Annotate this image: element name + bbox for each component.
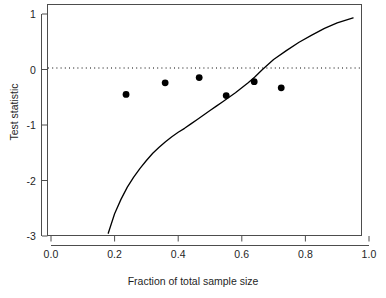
scatter-point-0	[123, 91, 130, 98]
x-tick-label-1: 0.2	[107, 248, 122, 260]
scatter-point-1	[162, 79, 169, 86]
scatter-point-2	[196, 74, 203, 81]
scatter-point-4	[251, 78, 258, 85]
x-axis-ticks	[51, 236, 369, 242]
y-axis-title: Test statistic	[8, 52, 20, 172]
plot-frame	[48, 5, 362, 236]
boundary-curve-path	[108, 18, 353, 233]
scatter-point-3	[223, 92, 230, 99]
scatter-point-5	[278, 84, 285, 91]
x-tick-label-2: 0.4	[171, 248, 186, 260]
y-tick-label-0: 1	[14, 8, 36, 20]
y-tick-label-4: -3	[14, 230, 36, 242]
y-axis-ticks	[42, 14, 48, 236]
x-axis-title: Fraction of total sample size	[0, 275, 386, 287]
chart-figure: 0.00.20.40.60.81.0 10-1-2-3 Fraction of …	[0, 0, 386, 298]
x-tick-label-3: 0.6	[234, 248, 249, 260]
scatter-points-group	[123, 74, 285, 99]
x-tick-label-4: 0.8	[298, 248, 313, 260]
x-tick-label-0: 0.0	[44, 248, 59, 260]
y-tick-label-3: -2	[14, 175, 36, 187]
x-tick-label-5: 1.0	[362, 248, 377, 260]
